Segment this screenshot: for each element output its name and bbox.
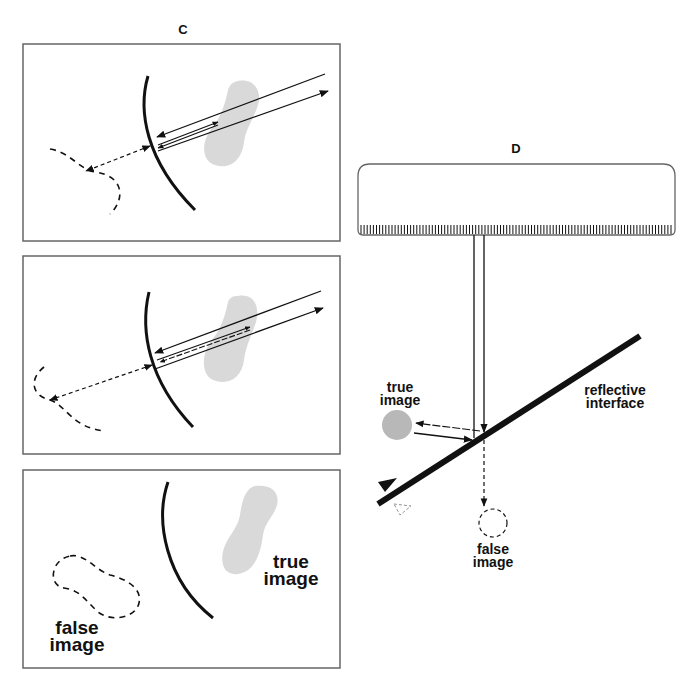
- false-image-outline: [50, 149, 120, 214]
- reflective-interface: [378, 336, 640, 504]
- d-true-image-label-line2: image: [380, 392, 421, 408]
- false-image-label-line2: image: [50, 634, 105, 655]
- panel-c2: [23, 256, 340, 454]
- false-image-outline: [34, 367, 105, 431]
- true-image-blob: [204, 81, 259, 167]
- panel-d-label: D: [511, 141, 520, 156]
- panel-c3: true image false image: [23, 470, 340, 668]
- curved-interface: [146, 292, 193, 427]
- interface-label-line2: interface: [586, 395, 645, 411]
- transducer-elements: [361, 225, 671, 234]
- mirror-arrowhead: [394, 504, 411, 515]
- false-image-circle: [479, 509, 507, 537]
- ultrasound-artifact-diagram: C true image false image D: [0, 0, 699, 683]
- panel-c-label: C: [178, 22, 188, 37]
- panel-c2-border: [23, 256, 340, 454]
- transducer: [358, 164, 675, 235]
- incident-arrowhead: [378, 478, 397, 492]
- panel-d: true image false image reflective interf…: [358, 164, 675, 570]
- curved-interface: [163, 482, 213, 618]
- d-false-image-label-line2: image: [473, 554, 514, 570]
- true-image-label-line2: image: [264, 568, 319, 589]
- true-image-blob: [222, 486, 277, 574]
- true-image-circle: [382, 410, 412, 440]
- false-image-outline: [53, 556, 139, 618]
- true-image-blob: [204, 296, 257, 382]
- panel-c1: [23, 44, 340, 241]
